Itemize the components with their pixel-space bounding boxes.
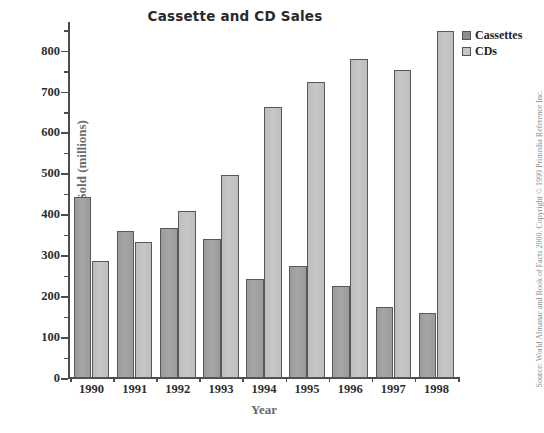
bar-cassettes-1992: [160, 228, 178, 378]
bar-group: [242, 22, 285, 378]
bar-group: [70, 22, 113, 378]
y-tick-label: 400: [20, 207, 60, 222]
y-tick-minor: [64, 30, 68, 32]
bar-cds-1996: [350, 59, 368, 378]
x-axis-title: Year: [70, 402, 458, 418]
x-tick-label-1994: 1994: [252, 382, 277, 397]
y-tick-major: [61, 173, 68, 175]
bar-group: [415, 22, 458, 378]
bar-cassettes-1997: [376, 307, 394, 378]
y-tick-major: [61, 378, 68, 380]
y-tick-major: [61, 214, 68, 216]
y-tick-minor: [64, 112, 68, 114]
y-tick-minor: [64, 358, 68, 360]
bar-group: [156, 22, 199, 378]
bars-layer: [70, 22, 458, 378]
y-tick-major: [61, 92, 68, 94]
y-tick-label: 500: [20, 166, 60, 181]
bar-group: [113, 22, 156, 378]
y-tick-label: 800: [20, 43, 60, 58]
y-tick-label: 300: [20, 248, 60, 263]
bar-cds-1995: [307, 82, 325, 378]
y-tick-minor: [64, 194, 68, 196]
bar-cassettes-1995: [289, 266, 307, 378]
y-tick-major: [61, 296, 68, 298]
legend-swatch-cassettes-icon: [462, 31, 471, 40]
bar-cds-1997: [394, 70, 412, 378]
y-tick-minor: [64, 317, 68, 319]
y-axis-tick-labels: 0100200300400500600700800: [16, 22, 60, 379]
x-tick-label-1991: 1991: [122, 382, 147, 397]
x-tick-label-1992: 1992: [165, 382, 190, 397]
bar-cds-1994: [264, 107, 282, 378]
y-tick-label: 100: [20, 330, 60, 345]
legend-item-cds: CDs: [462, 44, 532, 59]
bar-cds-1998: [437, 31, 455, 378]
y-tick-label: 0: [20, 371, 60, 386]
x-tick-label-1990: 1990: [79, 382, 104, 397]
bar-cds-1990: [92, 261, 110, 378]
chart-legend: CassettesCDs: [462, 28, 532, 60]
bar-group: [199, 22, 242, 378]
x-tick-label-1993: 1993: [208, 382, 233, 397]
legend-label: Cassettes: [475, 28, 522, 43]
bar-cds-1991: [135, 242, 153, 378]
bar-cassettes-1996: [332, 286, 350, 378]
bar-group: [372, 22, 415, 378]
y-tick-minor: [64, 235, 68, 237]
legend-item-cassettes: Cassettes: [462, 28, 532, 43]
legend-swatch-cds-icon: [462, 47, 471, 56]
source-note: Source: World Almanac and Book of Facts …: [535, 58, 544, 388]
y-tick-label: 700: [20, 84, 60, 99]
y-tick-major: [61, 132, 68, 134]
y-tick-major: [61, 255, 68, 257]
x-tick-label-1997: 1997: [381, 382, 406, 397]
x-axis-tick-labels: 199019911992199319941995199619971998: [70, 382, 458, 402]
y-tick-minor: [64, 276, 68, 278]
bar-cassettes-1994: [246, 279, 264, 378]
y-tick-minor: [64, 153, 68, 155]
bar-cassettes-1991: [117, 231, 135, 378]
x-tick-label-1998: 1998: [424, 382, 449, 397]
bar-cassettes-1990: [74, 197, 92, 378]
y-tick-label: 200: [20, 289, 60, 304]
bar-cassettes-1998: [419, 313, 437, 378]
y-tick-major: [61, 337, 68, 339]
x-tick-label-1996: 1996: [338, 382, 363, 397]
bar-cassettes-1993: [203, 239, 221, 378]
x-tick-label-1995: 1995: [295, 382, 320, 397]
y-tick-minor: [64, 71, 68, 73]
bar-cds-1993: [221, 175, 239, 378]
bar-cds-1992: [178, 211, 196, 378]
bar-group: [286, 22, 329, 378]
x-tick-mark: [458, 377, 460, 382]
legend-label: CDs: [475, 44, 497, 59]
y-tick-label: 600: [20, 125, 60, 140]
y-tick-major: [61, 51, 68, 53]
bar-group: [329, 22, 372, 378]
